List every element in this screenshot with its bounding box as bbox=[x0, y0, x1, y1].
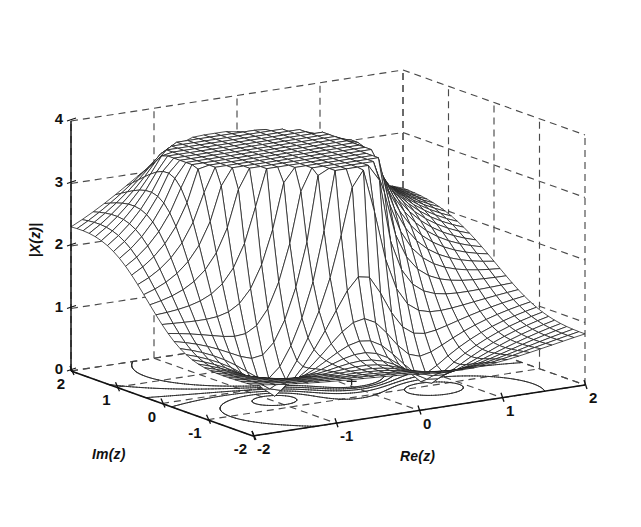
re-axis-title: Re(z) bbox=[400, 448, 435, 464]
surface-mesh bbox=[71, 129, 585, 396]
zplane-magnitude-plot: |X(z)| Im(z) Re(z) 01234210-1-2-2-1012 bbox=[0, 0, 641, 527]
axis-tick-label: 2 bbox=[589, 389, 597, 406]
axis-tick-label: 2 bbox=[55, 235, 63, 252]
axis-tick-label: 1 bbox=[506, 402, 514, 419]
axis-tick-label: 4 bbox=[55, 110, 63, 127]
axis-tick-label: 0 bbox=[423, 415, 431, 432]
axis-tick-label: 1 bbox=[55, 298, 63, 315]
axis-tick-label: -2 bbox=[234, 440, 247, 457]
axis-tick-label: 1 bbox=[102, 391, 110, 408]
axis-tick-label: 2 bbox=[57, 375, 65, 392]
axis-tick-label: -2 bbox=[257, 440, 270, 457]
axis-tick-label: -1 bbox=[188, 424, 201, 441]
z-axis-title: |X(z)| bbox=[27, 223, 43, 258]
axis-tick-label: 0 bbox=[148, 408, 156, 425]
im-axis-title: Im(z) bbox=[92, 446, 126, 462]
axis-tick-label: -1 bbox=[340, 427, 353, 444]
axis-tick-label: 3 bbox=[55, 173, 63, 190]
